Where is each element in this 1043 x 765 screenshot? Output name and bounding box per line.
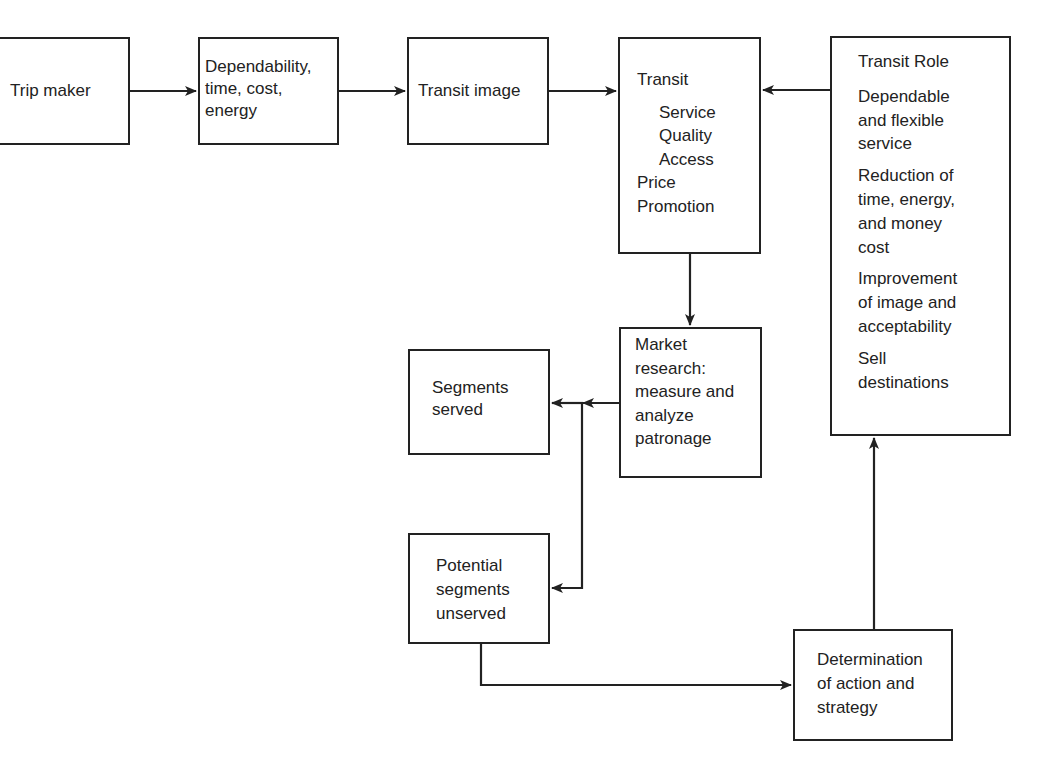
label-determination: Determination of action and strategy [817,648,923,720]
arrow-potential-to-determination [481,644,791,685]
arrow-junction-to-potential [552,403,582,588]
label-segments-served: Segments served [432,377,509,421]
label-trip-maker: Trip maker [10,80,91,102]
label-dependability: Dependability, time, cost, energy [205,56,311,122]
label-potential-segments: Potential segments unserved [436,554,510,626]
label-transit-image: Transit image [418,80,520,102]
label-transit-role: Transit Role Dependable and flexible ser… [858,50,957,394]
label-transit: Transit Service Quality Access Price Pro… [637,68,716,218]
label-market-research: Market research: measure and analyze pat… [635,333,734,451]
